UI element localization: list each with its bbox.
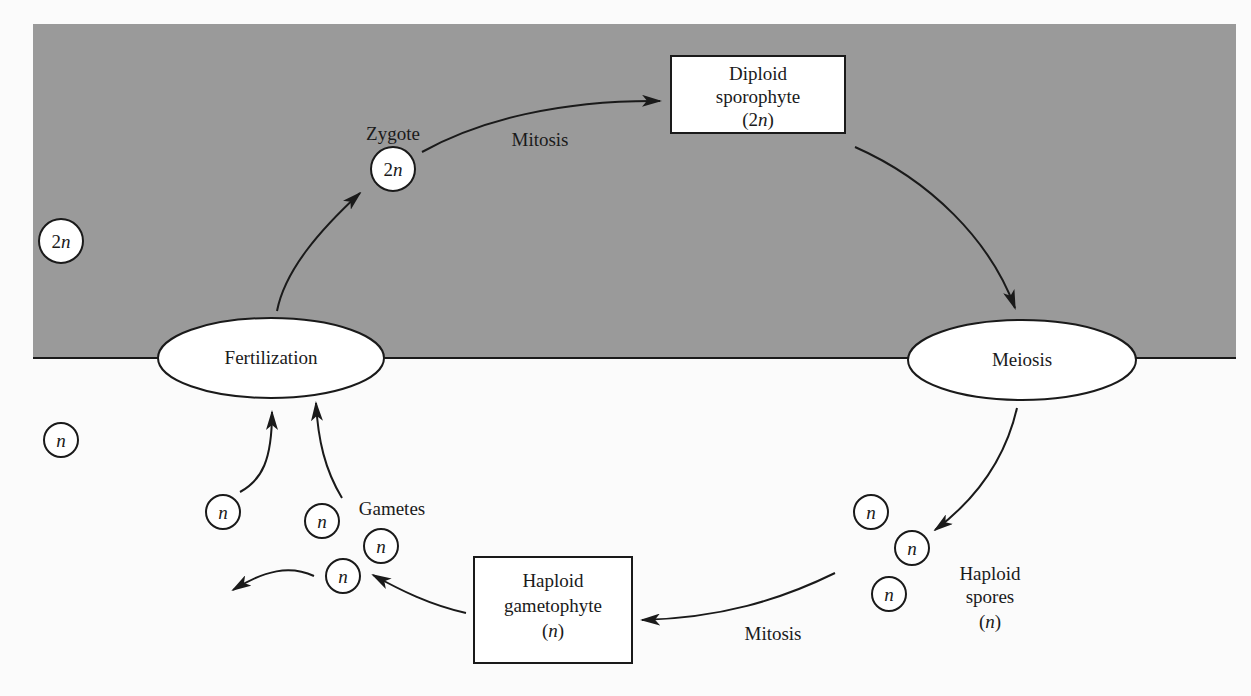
svg-text:n: n [376,536,386,557]
gamete-dispersal-arrow [233,570,314,590]
svg-text:Fertilization: Fertilization [225,347,318,368]
gametes-label: Gametes [359,498,425,519]
mitosis-top-label: Mitosis [511,129,568,150]
svg-text:n: n [907,538,917,559]
svg-text:sporophyte: sporophyte [716,86,800,107]
mitosis-bottom-label: Mitosis [744,623,801,644]
svg-text:2n: 2n [384,159,403,180]
diploid-sporophyte-node: Diploid sporophyte (2n) [671,56,845,133]
mitosis-bottom-arrow [642,573,835,620]
svg-text:Haploid: Haploid [522,570,584,591]
svg-text:(2n): (2n) [742,109,774,131]
svg-text:n: n [56,430,66,451]
svg-text:n: n [866,502,876,523]
gametophyte-to-gametes-arrow [373,575,466,613]
gamete-to-fertilization-arrow-2 [316,403,342,498]
svg-text:(n): (n) [979,611,1001,633]
zygote-node: Zygote 2n [366,123,420,191]
svg-text:(n): (n) [542,620,564,642]
svg-text:Meiosis: Meiosis [992,349,1052,370]
life-cycle-diagram: 2n n Zygote 2n Diploid sporophyte (2n) M… [0,0,1251,696]
meiosis-to-spores-arrow [935,408,1017,530]
svg-text:2n: 2n [52,231,71,252]
svg-text:spores: spores [966,586,1015,607]
svg-text:n: n [338,566,348,587]
fertilization-node: Fertilization [158,318,384,398]
svg-text:gametophyte: gametophyte [504,595,602,616]
diploid-region [33,24,1236,358]
svg-text:Diploid: Diploid [729,63,788,84]
diploid-region-legend: 2n [39,219,83,263]
gamete-to-fertilization-arrow-1 [240,412,272,492]
meiosis-node: Meiosis [908,320,1136,400]
svg-text:Haploid: Haploid [959,563,1021,584]
svg-text:n: n [218,502,228,523]
haploid-gametophyte-node: Haploid gametophyte (n) [474,557,632,663]
zygote-label: Zygote [366,123,420,144]
haploid-spores-node: n n n Haploid spores (n) [854,495,1021,633]
svg-text:n: n [317,511,327,532]
haploid-region-legend: n [44,423,78,457]
gametes-node: n n n n Gametes [206,495,425,593]
svg-text:n: n [884,584,894,605]
